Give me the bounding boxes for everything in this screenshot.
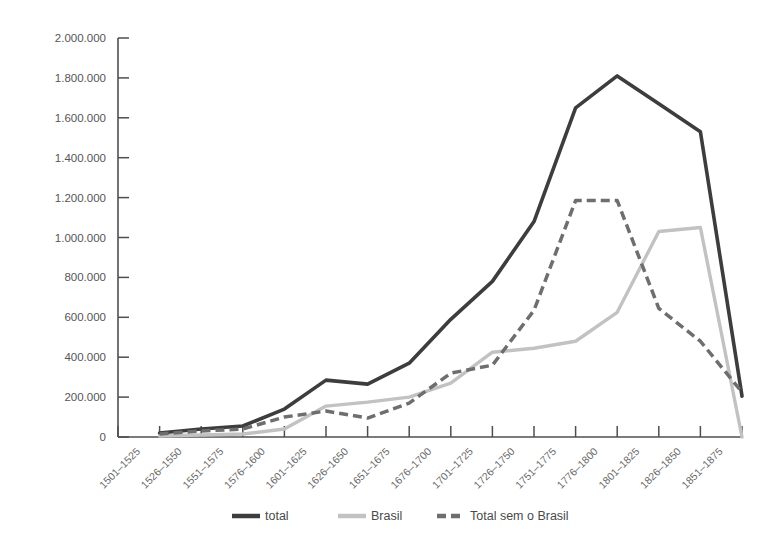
y-axis-tick-label: 1.000.000 xyxy=(55,232,106,244)
x-axis-tick-label: 1526–1550 xyxy=(138,445,184,491)
data-series-layer xyxy=(160,76,742,437)
y-axis-tick-label: 600.000 xyxy=(64,311,106,323)
x-axis-tick-label: 1501–1525 xyxy=(97,445,143,491)
y-axis-tick-label: 1.400.000 xyxy=(55,152,106,164)
legend-label-brasil: Brasil xyxy=(371,509,402,523)
chart-legend: totalBrasilTotal sem o Brasil xyxy=(232,509,569,523)
y-axis-tick-label: 1.200.000 xyxy=(55,192,106,204)
y-axis-tick-label: 1.600.000 xyxy=(55,112,106,124)
legend-label-total: total xyxy=(265,509,289,523)
x-axis-tick-label: 1551–1575 xyxy=(180,445,226,491)
y-axis-tick-label: 800.000 xyxy=(64,271,106,283)
x-axis-tick-label: 1851–1875 xyxy=(679,445,725,491)
y-axis-tick-label: 2.000.000 xyxy=(55,32,106,44)
y-axis-tick-label: 200.000 xyxy=(64,391,106,403)
legend-label-total-sem-o-brasil: Total sem o Brasil xyxy=(470,509,569,523)
x-axis-tick-label: 1726–1750 xyxy=(471,445,517,491)
chart-container: 0200.000400.000600.000800.0001.000.0001.… xyxy=(0,0,758,549)
x-axis-tick-label: 1626–1650 xyxy=(305,445,351,491)
x-axis-tick-label: 1826–1850 xyxy=(637,445,683,491)
x-axis-tick-label: 1676–1700 xyxy=(388,445,434,491)
x-axis-tick-label: 1651–1675 xyxy=(346,445,392,491)
x-axis-tick-label: 1751–1775 xyxy=(513,445,559,491)
y-axis-tick-marks xyxy=(118,38,129,437)
x-axis-tick-label: 1701–1725 xyxy=(429,445,475,491)
y-axis-tick-label: 0 xyxy=(100,431,106,443)
x-axis-tick-label: 1776–1800 xyxy=(554,445,600,491)
x-axis-tick-labels: 1501–15251526–15501551–15751576–16001601… xyxy=(97,445,725,491)
x-axis-tick-label: 1801–1825 xyxy=(596,445,642,491)
line-chart: 0200.000400.000600.000800.0001.000.0001.… xyxy=(0,0,758,549)
x-axis-tick-label: 1601–1625 xyxy=(263,445,309,491)
series-line-brasil xyxy=(160,228,742,437)
y-axis-tick-label: 1.800.000 xyxy=(55,72,106,84)
series-line-total xyxy=(160,76,742,433)
x-axis-tick-label: 1576–1600 xyxy=(221,445,267,491)
y-axis-tick-label: 400.000 xyxy=(64,351,106,363)
y-axis-tick-labels: 0200.000400.000600.000800.0001.000.0001.… xyxy=(55,32,106,443)
